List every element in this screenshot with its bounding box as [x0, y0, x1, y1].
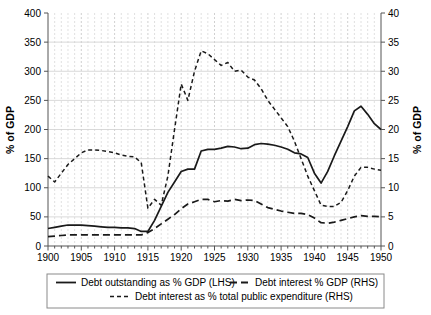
legend-label-2: Debt interest % GDP (RHS) [255, 277, 378, 288]
y-tick-label-right: 10 [388, 182, 400, 193]
x-tick-label: 1900 [37, 252, 60, 263]
y-tick-label-left: 400 [24, 8, 41, 19]
y-tick-label-right: 30 [388, 66, 400, 77]
y-tick-label-left: 250 [24, 95, 41, 106]
y-axis-left-tick-labels: 050100150200250300350400 [24, 8, 41, 252]
y-axis-left-ticks [44, 13, 48, 246]
y-axis-right-tick-labels: 0510152025303540 [388, 8, 400, 252]
y-tick-label-left: 300 [24, 66, 41, 77]
y-tick-label-left: 0 [35, 241, 41, 252]
y-tick-label-left: 50 [30, 211, 42, 222]
chart-legend: Debt outstanding as % GDP (LHS)Debt inte… [47, 274, 384, 308]
y-axis-left-title: % of GDP [4, 106, 16, 154]
y-tick-label-right: 25 [388, 95, 400, 106]
x-tick-label: 1940 [303, 252, 326, 263]
y-tick-label-left: 150 [24, 153, 41, 164]
line-chart: 1900190519101915192019251930193519401945… [0, 0, 431, 315]
x-axis-ticks [48, 246, 381, 251]
x-tick-label: 1925 [203, 252, 226, 263]
y-tick-label-right: 20 [388, 124, 400, 135]
y-tick-label-left: 100 [24, 182, 41, 193]
y-tick-label-right: 0 [388, 241, 394, 252]
x-tick-label: 1950 [370, 252, 393, 263]
x-tick-label: 1945 [337, 252, 360, 263]
y-tick-label-left: 350 [24, 37, 41, 48]
y-axis-right-ticks [381, 13, 385, 246]
chart-figure: 1900190519101915192019251930193519401945… [0, 0, 431, 315]
x-tick-label: 1920 [170, 252, 193, 263]
y-tick-label-right: 15 [388, 153, 400, 164]
x-tick-label: 1930 [237, 252, 260, 263]
x-tick-label: 1910 [103, 252, 126, 263]
y-tick-label-right: 40 [388, 8, 400, 19]
legend-label-1: Debt outstanding as % GDP (LHS) [81, 277, 235, 288]
legend-label-3: Debt interest as % total public expendit… [135, 291, 353, 302]
x-tick-label: 1915 [137, 252, 160, 263]
y-tick-label-right: 35 [388, 37, 400, 48]
y-axis-right-title: % of GDP [411, 106, 423, 154]
x-tick-label: 1935 [270, 252, 293, 263]
y-tick-label-right: 5 [388, 211, 394, 222]
y-tick-label-left: 200 [24, 124, 41, 135]
x-tick-label: 1905 [70, 252, 93, 263]
x-axis-tick-labels: 1900190519101915192019251930193519401945… [37, 252, 393, 263]
